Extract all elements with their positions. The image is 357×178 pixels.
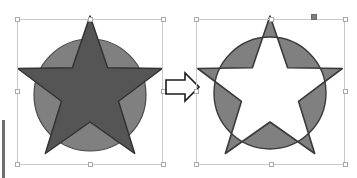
handle-right-nw[interactable] (194, 17, 199, 22)
handle-left-nw[interactable] (15, 17, 20, 22)
editor-canvas[interactable] (0, 0, 357, 178)
handle-right-e[interactable] (343, 89, 348, 94)
handle-right-ne[interactable] (343, 17, 348, 22)
selection-box-left[interactable] (17, 19, 163, 165)
active-handle[interactable] (311, 14, 317, 20)
handle-right-n[interactable] (269, 17, 274, 22)
handle-left-sw[interactable] (15, 162, 20, 167)
handle-left-s[interactable] (88, 162, 93, 167)
handle-right-s[interactable] (269, 162, 274, 167)
handle-right-w[interactable] (194, 89, 199, 94)
handle-left-n[interactable] (88, 17, 93, 22)
handle-left-ne[interactable] (161, 17, 166, 22)
handle-left-se[interactable] (161, 162, 166, 167)
handle-right-se[interactable] (343, 162, 348, 167)
handle-right-sw[interactable] (194, 162, 199, 167)
handle-left-w[interactable] (15, 89, 20, 94)
selection-box-right[interactable] (196, 19, 345, 165)
